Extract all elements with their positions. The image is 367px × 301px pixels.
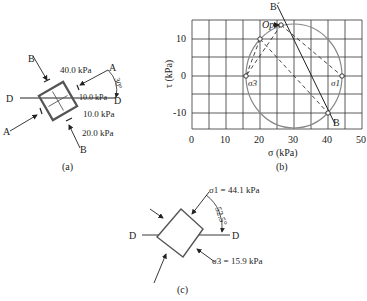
label-sigma3-c: σ3 = 15.9 kPa	[212, 256, 262, 266]
arrow-a-left	[10, 115, 37, 131]
caption-a: (a)	[62, 161, 73, 173]
label-b: B	[333, 117, 340, 128]
x-tick-50: 50	[356, 134, 366, 145]
point-sigma1	[340, 74, 344, 78]
arrow-b-top	[33, 56, 47, 80]
label-stress-top: 40.0 kPa	[60, 65, 92, 75]
figure-canvas: B 40.0 kPa A 30° D 10.0 kPa D 10.0 kPa A…	[0, 0, 367, 301]
y-tick-neg10: -10	[173, 107, 186, 118]
label-stress-right-shear: 10.0 kPa	[79, 93, 107, 102]
label-stress-bottom: 20.0 kPa	[82, 128, 114, 138]
x-tick-40: 40	[322, 134, 332, 145]
figure-a: B 40.0 kPa A 30° D 10.0 kPa D 10.0 kPa A…	[3, 53, 124, 173]
stress-element-a	[39, 82, 77, 120]
label-a-right: A	[109, 62, 117, 73]
x-axis-label: σ (kPa)	[268, 147, 298, 159]
point-b	[326, 111, 330, 115]
tick-mark	[66, 118, 72, 121]
label-d-left-c: D	[129, 230, 136, 241]
y-axis-label: τ (kPa)	[163, 60, 175, 88]
chart-grid	[192, 20, 362, 129]
label-angle-c: 52.5°	[213, 205, 229, 227]
label-sigma1-c: σ1 = 44.1 kPa	[209, 185, 259, 195]
stress-element-c	[157, 209, 203, 257]
x-tick-20: 20	[254, 134, 264, 145]
label-b-prime: B´	[270, 1, 280, 12]
y-tick-10: 10	[176, 33, 186, 44]
point-20-10	[258, 37, 262, 41]
caption-c: (c)	[177, 284, 188, 296]
point-pole	[279, 23, 283, 27]
label-sigma3: σ3	[248, 78, 257, 88]
label-stress-right: 10.0 kPa	[83, 109, 115, 119]
tick-mark	[40, 108, 42, 114]
label-d-right-c: D	[232, 230, 239, 241]
x-tick-0: 0	[189, 134, 194, 145]
x-tick-30: 30	[288, 134, 298, 145]
arrow-sigma3-left	[150, 209, 163, 218]
figure-c: D D σ1 = 44.1 kPa 52.5° σ3 = 15.9 kPa (c…	[129, 185, 262, 296]
figure-b-mohr-chart: 0 10 20 30 40 50 10 0 -10 τ (kPa) σ (kPa…	[163, 1, 366, 173]
line-b-prime-to-b	[277, 5, 335, 124]
x-tick-10: 10	[220, 134, 230, 145]
label-b-bottom: B	[80, 144, 87, 155]
caption-b: (b)	[276, 161, 288, 173]
label-angle-a: 30°	[112, 77, 124, 90]
label-a-left: A	[3, 126, 11, 137]
label-pole: Op	[262, 19, 274, 30]
tick-mark	[77, 85, 79, 90]
arrow-b-bottom	[69, 125, 80, 148]
y-tick-0: 0	[181, 70, 186, 81]
arrow-sigma1-bottom	[154, 254, 166, 283]
label-b-top: B	[28, 53, 35, 64]
label-sigma1: σ1	[331, 78, 340, 88]
label-d-left: D	[6, 93, 13, 104]
label-d-right: D	[114, 95, 121, 106]
